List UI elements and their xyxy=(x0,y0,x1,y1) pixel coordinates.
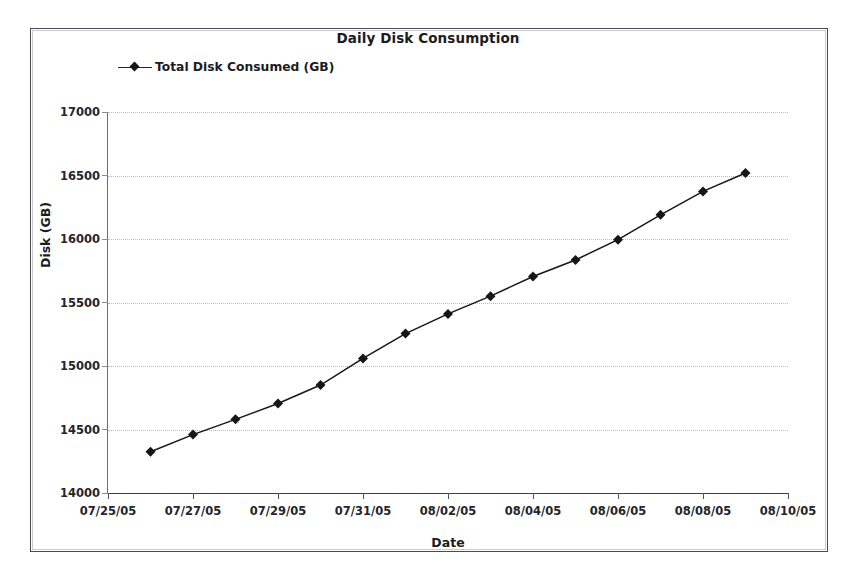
data-point-marker xyxy=(613,235,623,245)
x-tick-label: 08/04/05 xyxy=(505,504,561,518)
x-tick-label: 07/31/05 xyxy=(335,504,391,518)
data-point-marker xyxy=(273,398,283,408)
legend-entry-label: Total Disk Consumed (GB) xyxy=(155,60,334,74)
data-point-marker xyxy=(443,309,453,319)
x-tick-mark xyxy=(278,493,279,499)
plot-area: 17000165001600015500150001450014000 07/2… xyxy=(108,112,788,493)
x-tick-label: 07/27/05 xyxy=(165,504,221,518)
y-tick-label: 16500 xyxy=(60,169,100,183)
chart-title: Daily Disk Consumption xyxy=(0,30,856,46)
chart-legend: Total Disk Consumed (GB) xyxy=(118,60,334,74)
data-point-marker xyxy=(741,168,751,178)
data-point-marker xyxy=(231,414,241,424)
x-tick-label: 08/08/05 xyxy=(675,504,731,518)
x-tick-label: 08/06/05 xyxy=(590,504,646,518)
data-point-marker xyxy=(571,255,581,265)
data-point-marker xyxy=(401,329,411,339)
y-tick-label: 17000 xyxy=(60,105,100,119)
y-tick-label: 14000 xyxy=(60,486,100,500)
chart-screenshot: Daily Disk Consumption Total Disk Consum… xyxy=(0,0,856,585)
y-tick-label: 15000 xyxy=(60,359,100,373)
y-tick-label: 16000 xyxy=(60,232,100,246)
x-axis-title: Date xyxy=(108,535,788,550)
data-series-total-disk-consumed xyxy=(108,112,788,493)
x-tick-mark xyxy=(703,493,704,499)
x-tick-mark xyxy=(533,493,534,499)
data-point-marker xyxy=(188,430,198,440)
x-tick-mark xyxy=(108,493,109,499)
data-point-marker xyxy=(528,271,538,281)
y-axis-title: Disk (GB) xyxy=(38,202,53,268)
data-point-marker xyxy=(316,380,326,390)
data-point-marker xyxy=(146,447,156,457)
x-tick-mark xyxy=(193,493,194,499)
x-tick-mark xyxy=(788,493,789,499)
y-tick-label: 15500 xyxy=(60,296,100,310)
x-tick-label: 07/25/05 xyxy=(80,504,136,518)
data-point-marker xyxy=(698,186,708,196)
y-tick-label: 14500 xyxy=(60,423,100,437)
x-tick-label: 08/02/05 xyxy=(420,504,476,518)
x-tick-mark xyxy=(363,493,364,499)
x-tick-label: 08/10/05 xyxy=(760,504,816,518)
x-tick-label: 07/29/05 xyxy=(250,504,306,518)
data-point-marker xyxy=(358,353,368,363)
legend-line-diamond-icon xyxy=(118,61,152,73)
data-point-marker xyxy=(656,210,666,220)
x-tick-mark xyxy=(618,493,619,499)
x-tick-mark xyxy=(448,493,449,499)
data-point-marker xyxy=(486,291,496,301)
